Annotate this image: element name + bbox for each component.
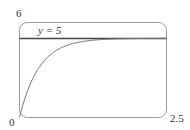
growth-curve (20, 38, 167, 117)
y-max-label: 6 (16, 8, 22, 19)
asymptote-label: y = 5 (38, 25, 61, 36)
origin-label: 0 (9, 117, 15, 128)
chart-plot (0, 0, 190, 130)
x-max-label: 2.5 (170, 113, 184, 124)
plot-frame (20, 23, 167, 118)
